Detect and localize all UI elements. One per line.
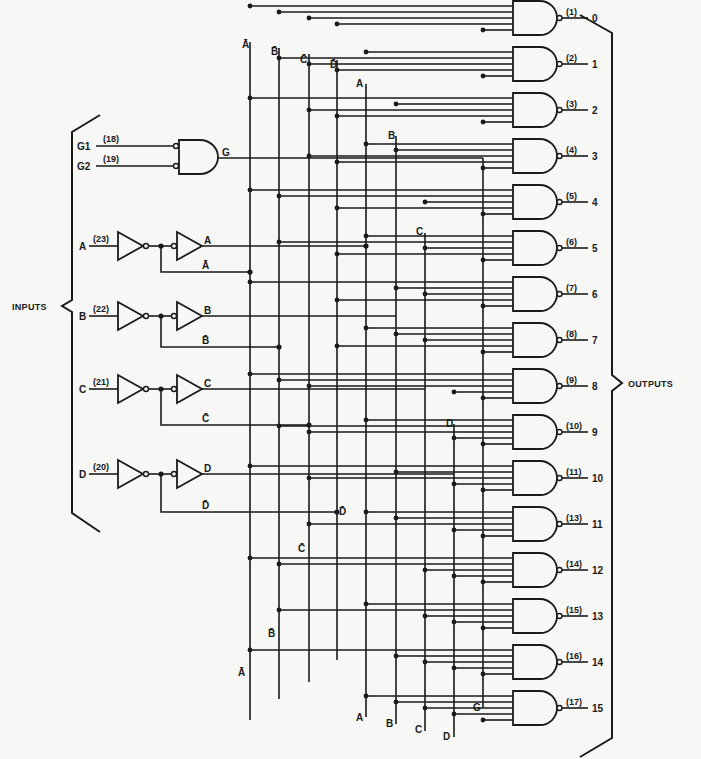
output-index-label: 7 xyxy=(592,335,598,346)
inverter-icon xyxy=(118,232,143,260)
output-pin-label: (11) xyxy=(566,467,582,477)
inverting-output-icon xyxy=(557,246,562,251)
nand-gate-icon xyxy=(513,553,557,587)
output-gate-1: (2)1 xyxy=(277,47,598,81)
nand-gate-icon xyxy=(513,1,557,35)
inverting-output-icon xyxy=(557,706,562,711)
inverting-input-icon xyxy=(174,144,179,149)
inverting-output-icon xyxy=(557,62,562,67)
nand-gate-icon xyxy=(513,47,557,81)
input-b-buffer: B(22)BB̄ xyxy=(79,302,396,350)
true-output-label: D xyxy=(204,463,211,474)
complement-output-label: Ā xyxy=(202,260,209,271)
output-pin-label: (1) xyxy=(566,7,577,17)
pin-label: (23) xyxy=(93,234,109,244)
inverter-icon xyxy=(118,302,143,330)
nand-gate-icon xyxy=(513,691,557,725)
bus-label-nC: C̄ xyxy=(298,543,305,554)
true-output-label: A xyxy=(204,235,211,246)
bus-label-nB: B̄ xyxy=(271,46,278,57)
output-gate-13: (15)13 xyxy=(277,599,604,633)
output-index-label: 15 xyxy=(592,703,604,714)
outputs-label: OUTPUTS xyxy=(628,379,673,389)
output-gate-6: (7)6 xyxy=(248,277,598,311)
output-pin-label: (14) xyxy=(566,559,582,569)
input-a-buffer: A(23)AĀ xyxy=(79,232,369,275)
output-index-label: 11 xyxy=(592,519,603,530)
inverting-output-icon xyxy=(557,292,562,297)
enable-section: G1 (18) G2 (19) G xyxy=(77,134,483,174)
enable-nor-gate-icon xyxy=(179,140,218,174)
inverting-output-icon xyxy=(557,154,562,159)
inverting-output-icon xyxy=(557,338,562,343)
nand-gate-icon xyxy=(513,369,557,403)
input-label: B xyxy=(79,311,86,322)
g1-pin-label: (18) xyxy=(103,134,119,144)
nand-gate-icon xyxy=(513,323,557,357)
true-output-label: C xyxy=(204,378,211,389)
inverter-icon xyxy=(118,460,143,488)
bus-label-A: A xyxy=(356,712,363,723)
output-gate-4: (5)4 xyxy=(248,185,598,219)
complement-output-label: B̄ xyxy=(202,335,209,346)
nand-gate-icon xyxy=(513,599,557,633)
pin-label: (22) xyxy=(93,304,109,314)
nand-gate-icon xyxy=(513,231,557,265)
output-gate-5: (6)5 xyxy=(277,231,598,265)
pin-label: (21) xyxy=(93,377,109,387)
inverting-output-icon xyxy=(557,384,562,389)
output-gate-9: (10)9 xyxy=(277,415,598,449)
bus-label-nC: C̄ xyxy=(300,54,307,65)
output-gate-2: (3)2 xyxy=(248,93,598,127)
inputs-label: INPUTS xyxy=(12,302,47,312)
output-pin-label: (3) xyxy=(566,99,577,109)
output-index-label: 2 xyxy=(592,105,598,116)
inverting-output-icon xyxy=(557,16,562,21)
inverting-output-icon xyxy=(557,108,562,113)
bus-label-B: B xyxy=(388,130,395,141)
g2-input-label: G2 xyxy=(77,161,91,172)
bus-label-A: A xyxy=(356,78,363,89)
input-d-buffer: D(20)DD̄ xyxy=(79,460,454,515)
buffer-icon xyxy=(177,460,202,488)
output-pin-label: (13) xyxy=(566,513,582,523)
complement-output-label: C̄ xyxy=(202,413,209,424)
output-index-label: 6 xyxy=(592,289,598,300)
complement-output-label: D̄ xyxy=(202,500,209,511)
bus-label-nA: Ā xyxy=(242,39,249,50)
output-gate-15: (17)15 xyxy=(364,691,604,725)
nand-gate-icon xyxy=(513,185,557,219)
output-pin-label: (10) xyxy=(566,421,582,431)
pin-label: (20) xyxy=(93,462,109,472)
nand-gate-icon xyxy=(513,461,557,495)
bus-label-nB: B̄ xyxy=(268,628,275,639)
inverting-output-icon xyxy=(557,200,562,205)
input-label: D xyxy=(79,469,86,480)
output-index-label: 1 xyxy=(592,59,598,70)
output-index-label: 3 xyxy=(592,151,598,162)
nand-gate-icon xyxy=(513,139,557,173)
inverting-output-icon xyxy=(557,660,562,665)
output-gate-8: (9)8 xyxy=(248,369,598,403)
buffer-icon xyxy=(177,375,202,403)
output-gate-7: (8)7 xyxy=(335,323,598,357)
buffer-icon xyxy=(177,232,202,260)
output-gate-11: (13)11 xyxy=(307,507,603,541)
output-index-label: 14 xyxy=(592,657,604,668)
bus-label-D: D xyxy=(443,731,450,742)
input-label: C xyxy=(79,384,86,395)
inverting-output-icon xyxy=(557,614,562,619)
output-pin-label: (7) xyxy=(566,283,577,293)
output-pin-label: (16) xyxy=(566,651,582,661)
inverting-output-icon xyxy=(557,430,562,435)
output-index-label: 4 xyxy=(592,197,598,208)
output-index-label: 10 xyxy=(592,473,604,484)
output-pin-label: (5) xyxy=(566,191,577,201)
nand-gate-icon xyxy=(513,277,557,311)
output-index-label: 13 xyxy=(592,611,604,622)
output-index-label: 12 xyxy=(592,565,604,576)
g2-pin-label: (19) xyxy=(103,154,119,164)
inverter-icon xyxy=(118,375,143,403)
decoder-logic-diagram: INPUTS OUTPUTS G1 (18) G2 (19) G A(23)AĀ… xyxy=(0,0,701,759)
true-output-label: B xyxy=(204,305,211,316)
